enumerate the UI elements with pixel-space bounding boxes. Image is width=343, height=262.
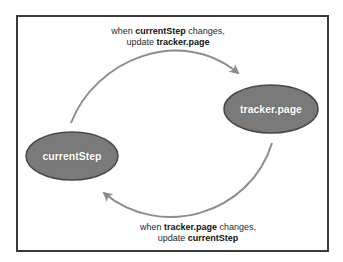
- caption-bottom-target: currentStep: [188, 233, 239, 243]
- node-current-step-label: currentStep: [43, 150, 102, 162]
- caption-top-line1: when currentStep changes,: [108, 26, 228, 37]
- arrow-trackerpage-to-currentstep: [104, 143, 272, 217]
- caption-bottom: when tracker.page changes, update curren…: [136, 222, 260, 244]
- caption-top-target: tracker.page: [156, 37, 209, 47]
- caption-top-source: currentStep: [135, 26, 186, 36]
- caption-top: when currentStep changes, update tracker…: [108, 26, 228, 48]
- caption-bottom-line2: update currentStep: [136, 233, 260, 244]
- caption-bottom-source: tracker.page: [164, 222, 217, 232]
- caption-top-line2: update tracker.page: [108, 37, 228, 48]
- node-tracker-page-label: tracker.page: [240, 103, 302, 115]
- caption-bottom-line1: when tracker.page changes,: [136, 222, 260, 233]
- arrow-currentstep-to-trackerpage: [71, 51, 238, 123]
